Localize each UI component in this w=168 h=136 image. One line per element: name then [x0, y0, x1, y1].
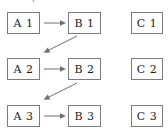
node-a2-label: A 2 [14, 64, 34, 75]
node-b2-label: B 2 [74, 64, 94, 75]
node-a1[interactable]: A 1 [7, 12, 40, 34]
arrow-b1-to-a2 [44, 36, 78, 53]
arrow-a2-to-b2 [44, 66, 66, 72]
arrow-b2-to-a3 [44, 83, 78, 100]
arrow-a3-to-b3 [44, 113, 66, 119]
node-c1-label: C 1 [137, 18, 157, 29]
node-b3-label: B 3 [74, 111, 94, 122]
node-b1[interactable]: B 1 [68, 12, 101, 34]
node-a1-label: A 1 [14, 18, 34, 29]
node-c2[interactable]: C 2 [131, 58, 163, 80]
node-c1[interactable]: C 1 [131, 12, 163, 34]
node-c2-label: C 2 [137, 64, 157, 75]
node-b3[interactable]: B 3 [68, 105, 101, 127]
node-a2[interactable]: A 2 [7, 58, 40, 80]
node-c3-label: C 3 [137, 111, 157, 122]
node-a3[interactable]: A 3 [7, 105, 40, 127]
node-b2[interactable]: B 2 [68, 58, 101, 80]
node-c3[interactable]: C 3 [131, 105, 163, 127]
node-b1-label: B 1 [74, 18, 94, 29]
node-a3-label: A 3 [14, 111, 34, 122]
diagram-canvas: Example 2. A 1 B 1 [0, 0, 168, 136]
arrow-a1-to-b1 [44, 20, 66, 26]
